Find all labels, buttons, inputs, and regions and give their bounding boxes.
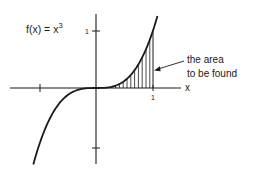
- cubic-curve: [33, 16, 157, 165]
- annotation-line1: the area: [187, 54, 224, 65]
- area-hatching: [108, 31, 153, 89]
- x-axis-label: x: [185, 82, 190, 93]
- cubic-area-diagram: f(x) = x3 1 1 x the area to be found: [0, 0, 256, 177]
- x-tick-label: 1: [151, 94, 155, 101]
- function-label: f(x) = x3: [26, 21, 63, 35]
- y-tick-label: 1: [85, 28, 89, 35]
- annotation-arrow: [154, 61, 184, 71]
- annotation-line2: to be found: [187, 68, 237, 79]
